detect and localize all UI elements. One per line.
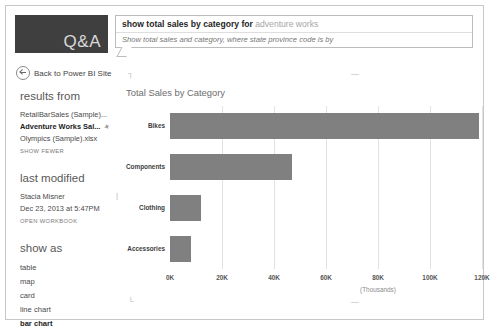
x-axis-tick: 80K	[372, 274, 384, 281]
show-as-heading: show as	[20, 242, 124, 255]
x-axis-tick: 120K	[474, 274, 489, 281]
bar-components[interactable]: Components	[170, 154, 292, 180]
last-modified-timestamp: Dec 23, 2013 at 5:47PM	[20, 203, 124, 215]
sidebar: results from RetailBarSales (Sample)... …	[20, 90, 124, 330]
question-input[interactable]: show total sales by category for adventu…	[122, 19, 318, 29]
pin-icon[interactable]: ✦	[103, 120, 113, 133]
show-as-table[interactable]: table	[20, 261, 124, 275]
x-axis-units-label: (Thousands)	[360, 286, 396, 293]
category-label: Bikes	[148, 113, 165, 139]
gridline	[482, 106, 483, 269]
show-as-card[interactable]: card	[20, 289, 124, 303]
question-typed-text: show total sales by category for	[122, 19, 253, 29]
qna-logo-text: Q&A	[64, 32, 101, 51]
category-label: Accessories	[127, 236, 165, 262]
sidebar-item-retailbarsales[interactable]: RetailBarSales (Sample)...	[20, 109, 124, 121]
x-axis-tick: 100K	[422, 274, 437, 281]
question-box-pointer	[116, 47, 131, 57]
stray-mark-left: |	[116, 192, 118, 200]
stray-mark-top-left: ┐	[128, 70, 134, 78]
sidebar-item-olympics[interactable]: Olympics (Sample).xlsx	[20, 133, 124, 145]
stray-mark-bottom-right: —	[351, 298, 359, 306]
x-axis-tick: 60K	[320, 274, 332, 281]
show-fewer-link[interactable]: SHOW FEWER	[20, 145, 124, 158]
stray-mark-bottom-left: └	[128, 298, 134, 306]
back-link-label: Back to Power BI Site	[34, 69, 111, 78]
qna-window: Q&A show total sales by category for adv…	[5, 5, 484, 320]
stray-mark-top-right: —	[351, 70, 359, 78]
sidebar-item-adventure-works[interactable]: Adventure Works Sal... ✦	[20, 121, 124, 133]
back-arrow-icon	[16, 66, 30, 80]
back-to-power-bi-link[interactable]: Back to Power BI Site	[16, 66, 111, 80]
sidebar-item-label: Adventure Works Sal...	[20, 121, 100, 133]
show-as-line-chart[interactable]: line chart	[20, 303, 124, 317]
last-modified-author: Stacia Misner	[20, 191, 124, 203]
x-axis-tick: 0K	[166, 274, 174, 281]
show-as-bar-chart[interactable]: bar chart	[20, 317, 124, 330]
question-suggestion-text: adventure works	[255, 19, 318, 29]
bar-bikes[interactable]: Bikes	[170, 113, 479, 139]
sidebar-item-label: RetailBarSales (Sample)...	[20, 109, 107, 121]
question-divider	[116, 32, 472, 33]
bar-accessories[interactable]: Accessories	[170, 236, 191, 262]
x-axis-tick: 40K	[268, 274, 280, 281]
open-workbook-link[interactable]: OPEN WORKBOOK	[20, 215, 124, 228]
question-interpretation: Show total sales and category, where sta…	[122, 35, 333, 44]
category-label: Components	[126, 154, 165, 180]
sidebar-item-label: Olympics (Sample).xlsx	[20, 133, 97, 145]
x-axis-tick: 20K	[216, 274, 228, 281]
bar-clothing[interactable]: Clothing	[170, 195, 201, 221]
chart-title: Total Sales by Category	[126, 87, 225, 98]
show-as-map[interactable]: map	[20, 275, 124, 289]
category-label: Clothing	[139, 195, 165, 221]
bar-chart-plot-area[interactable]: BikesComponentsClothingAccessories0K20K4…	[170, 106, 482, 269]
last-modified-heading: last modified	[20, 172, 124, 185]
qna-logo-tile: Q&A	[15, 15, 108, 53]
chart-panel: Total Sales by Category BikesComponentsC…	[124, 84, 474, 310]
results-from-heading: results from	[20, 90, 124, 103]
question-box[interactable]: show total sales by category for adventu…	[115, 15, 473, 48]
